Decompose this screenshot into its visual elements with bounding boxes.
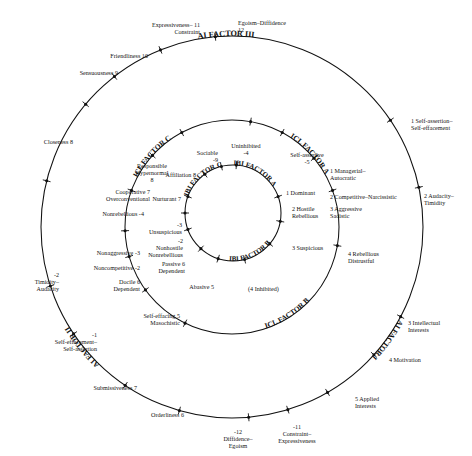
arc-label-ibi-factor-b: IBI FACTOR B <box>229 239 273 263</box>
point-label-line: Passive 6 <box>0 261 185 268</box>
point-label-line: Dependent <box>0 268 185 275</box>
point-label-self-assertion-self-effacement: 1 Self-assertion–Self-effacement <box>411 118 472 132</box>
point-label-line: Closeness 8 <box>0 139 73 146</box>
point-label-line: Constraint <box>0 29 200 36</box>
point-label-line: Autocratic <box>330 175 472 182</box>
point-label-line: Self-assertion <box>0 346 97 353</box>
point-label-number: -2 <box>0 238 183 245</box>
point-label-line: 3 Suspicious <box>292 245 472 252</box>
point-label-motivation: 4 Motivation <box>389 357 472 364</box>
point-label-line: Sensuousness 9 <box>0 70 118 77</box>
circumplex-figure: AI FACTOR III AI FACTOR I AI FACTOR II I… <box>0 0 472 456</box>
point-label-line: Egoism–Diffidence <box>238 20 472 27</box>
point-label-line: 1 Self-assertion– <box>411 118 472 125</box>
point-label-line: 2 Hostile <box>292 206 472 213</box>
point-label-line: Nonrebellious -4 <box>0 211 144 218</box>
point-label-intellectual-interests: 3 IntellectualInterests <box>408 320 472 334</box>
point-label-line: 1 Dominant <box>286 190 472 197</box>
point-label-submissiveness: Submissiveness 7 <box>0 385 137 392</box>
point-label-number: -9 <box>0 157 218 164</box>
point-label-number: 12 <box>238 27 472 34</box>
point-label-hostile-rebellious: 2 HostileRebellious <box>292 206 472 220</box>
point-label-passive-dependent: Passive 6Dependent <box>0 261 185 275</box>
point-label-line: Expressiveness– 11 <box>0 22 200 29</box>
ring-tick <box>387 118 394 122</box>
point-label-line: 5 Applied <box>355 396 472 403</box>
point-label-rebellious-distrustful: 4 RebelliousDistrustful <box>348 251 472 265</box>
point-label-number: -1 <box>0 332 97 339</box>
point-label-line: Nurturant 7 <box>0 196 181 203</box>
point-label-inhibited: (4 Inhibited) <box>248 286 472 293</box>
point-label-line: Self-effacement <box>411 125 472 132</box>
point-label-sociable: Sociable-9 <box>0 150 218 164</box>
point-label-line: Masochistic <box>0 320 180 327</box>
point-label-nonrebellious: Nonrebellious -4 <box>0 211 144 218</box>
point-label-suspicious: 3 Suspicious <box>292 245 472 252</box>
point-label-line: Interests <box>355 403 472 410</box>
point-label-friendliness: Friendliness 10 <box>0 53 148 60</box>
point-label-line: Orderliness 6 <box>0 412 184 419</box>
arc-label-icl-factor-b: ICL FACTOR B <box>264 296 311 330</box>
point-label-line: Interests <box>408 327 472 334</box>
point-label-number: -11 <box>245 424 349 431</box>
point-label-line: Unsuspicious <box>0 229 182 236</box>
point-label-nonhostile-nonrebellious: -2NonhostileNonrebellious <box>0 238 183 260</box>
point-label-egoism-diffidence: Egoism–Diffidence12 <box>238 20 472 34</box>
point-label-line: 3 Intellectual <box>408 320 472 327</box>
point-label-line: Nonrebellious <box>0 252 183 259</box>
point-label-orderliness: Orderliness 6 <box>0 412 184 419</box>
point-label-sensuousness: Sensuousness 9 <box>0 70 118 77</box>
point-label-managerial-autocratic: 1 Managerial–Autocratic <box>330 168 472 182</box>
point-label-line: Self-effacement– <box>0 339 97 346</box>
point-label-self-effacement-self-assertion: -1Self-effacement–Self-assertion <box>0 332 97 354</box>
point-label-line: Abasive 5 <box>0 284 214 291</box>
point-label-line: 1 Managerial– <box>330 168 472 175</box>
point-label-line: Constraint– <box>245 431 349 438</box>
point-label-constraint-expressiveness: -11Constraint–Expressiveness <box>245 424 349 446</box>
point-label-line: (4 Inhibited) <box>248 286 472 293</box>
point-label-line: 4 Motivation <box>389 357 472 364</box>
point-label-dominant: 1 Dominant <box>286 190 472 197</box>
point-label-line: Distrustful <box>348 258 472 265</box>
point-label-line: Submissiveness 7 <box>0 385 137 392</box>
point-label-line: Nonhostile <box>0 245 183 252</box>
point-label-applied-interests: 5 AppliedInterests <box>355 396 472 410</box>
point-label-closeness: Closeness 8 <box>0 139 73 146</box>
point-label-expressiveness-constraint: Expressiveness– 11Constraint <box>0 22 200 36</box>
ring-tick <box>248 413 249 421</box>
point-label-line: Rebellious <box>292 213 472 220</box>
point-label-abasive: Abasive 5 <box>0 284 214 291</box>
point-label-nurturant: Nurturant 7 <box>0 196 181 203</box>
point-label-unsuspicious: -3Unsuspicious <box>0 222 182 236</box>
point-label-number: -5 <box>255 159 359 166</box>
point-label-number: -3 <box>0 222 182 229</box>
point-label-affiliation: Affiliation 8 <box>0 172 196 179</box>
point-label-self-effacing-masochistic: Self-effacing 5Masochistic <box>0 313 180 327</box>
point-label-line: Sociable <box>0 150 218 157</box>
point-label-line: Expressiveness <box>245 438 349 445</box>
point-label-line: Affiliation 8 <box>0 172 196 179</box>
point-label-line: Friendliness 10 <box>0 53 148 60</box>
arc-label-ai-factor-1: AI FACTOR I <box>370 319 405 362</box>
point-label-line: Self-effacing 5 <box>0 313 180 320</box>
